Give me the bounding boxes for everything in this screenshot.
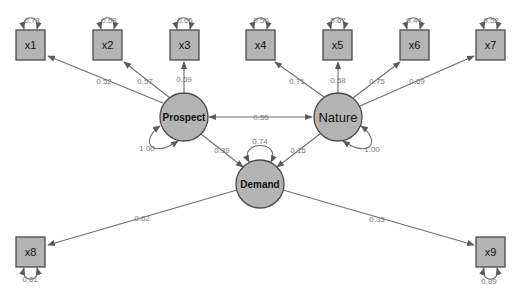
loading-value-x6: 0.75 (369, 77, 385, 86)
indicator-label: x7 (485, 39, 497, 51)
indicator-x7: x7 (476, 30, 505, 60)
indicator-x8: x8 (16, 237, 45, 267)
residual-value-x2: 0.68 (101, 16, 117, 25)
indicator-label: x3 (179, 39, 191, 51)
indicator-label: x8 (25, 246, 37, 258)
loading-value-x2: 0.57 (137, 77, 153, 86)
residual-value-x5: 0.67 (330, 16, 346, 25)
regression-value-nature-demand: 0.15 (290, 146, 306, 155)
indicator-label: x4 (255, 39, 267, 51)
latent-nature: Nature (314, 93, 362, 141)
indicator-x2: x2 (93, 30, 122, 60)
variance-value-demand: 0.74 (252, 137, 268, 146)
latent-label: Nature (318, 110, 357, 125)
residual-value-x6: 0.44 (406, 16, 422, 25)
indicator-label: x2 (102, 39, 114, 51)
loading-value-x7: 0.69 (409, 77, 425, 86)
indicator-label: x6 (409, 39, 421, 51)
residual-value-x7: 0.52 (483, 16, 499, 25)
loading-value-x1: 0.52 (96, 77, 112, 86)
regression-value-prospect-demand: 0.39 (214, 146, 230, 155)
indicator-x5: x5 (323, 30, 352, 60)
indicator-x9: x9 (476, 237, 505, 267)
indicator-label: x1 (25, 39, 37, 51)
indicator-label: x5 (332, 39, 344, 51)
indicator-x6: x6 (400, 30, 429, 60)
covariance-value: 0.55 (253, 113, 269, 122)
residual-value-x8: 0.61 (22, 275, 38, 284)
indicator-x3: x3 (170, 30, 199, 60)
residual-value-x1: 0.73 (24, 16, 40, 25)
loading-value-x3: 0.59 (176, 75, 192, 84)
residual-value-x9: 0.89 (481, 277, 497, 286)
loading-value-x4: 0.71 (289, 77, 305, 86)
latent-label: Prospect (163, 112, 206, 123)
sem-path-diagram: x1 x2 x3 x4 x5 x6 x7 x8 x9 Prospect Natu… (0, 0, 517, 294)
loading-value-x9: 0.33 (369, 215, 385, 224)
indicator-x4: x4 (246, 30, 275, 60)
residual-value-x4: 0.50 (253, 16, 269, 25)
loading-value-x8: 0.62 (134, 214, 150, 223)
latent-prospect: Prospect (160, 93, 208, 141)
loading-value-x5: 0.58 (330, 76, 346, 85)
variance-value-prospect: 1.00 (139, 144, 155, 153)
latent-demand: Demand (236, 160, 284, 208)
latent-label: Demand (240, 179, 279, 190)
indicator-label: x9 (485, 246, 497, 258)
residual-value-x3: 0.65 (177, 16, 193, 25)
indicator-x1: x1 (16, 30, 45, 60)
variance-value-nature: 1.00 (364, 145, 380, 154)
